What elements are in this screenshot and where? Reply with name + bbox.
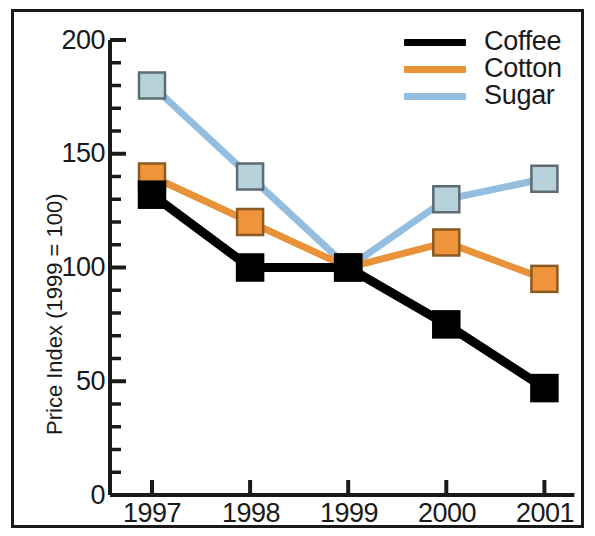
marker-coffee-2001	[531, 375, 557, 401]
marker-sugar-1998	[237, 164, 263, 190]
xtick-label-2000: 2000	[418, 498, 476, 529]
marker-sugar-1997	[139, 73, 165, 99]
marker-coffee-2000	[433, 311, 459, 337]
series-coffee	[139, 182, 557, 401]
xtick-label-1997: 1997	[123, 498, 181, 529]
marker-cotton-1998	[237, 209, 263, 235]
xtick-label-2001: 2001	[516, 498, 574, 529]
legend-item-coffee: Coffee	[404, 28, 584, 55]
legend-swatch-cotton	[404, 66, 466, 73]
legend-item-sugar: Sugar	[404, 82, 584, 109]
chart-legend: Coffee Cotton Sugar	[404, 28, 584, 110]
series-line-coffee	[152, 195, 544, 388]
marker-cotton-2000	[433, 229, 459, 255]
ytick-label-200: 200	[10, 25, 105, 56]
marker-cotton-2001	[531, 266, 557, 292]
legend-swatch-coffee	[404, 39, 466, 46]
marker-coffee-1997	[139, 182, 165, 208]
legend-label-sugar: Sugar	[484, 80, 555, 111]
xtick-label-1999: 1999	[320, 498, 378, 529]
legend-item-cotton: Cotton	[404, 55, 584, 82]
marker-sugar-2000	[433, 186, 459, 212]
marker-coffee-1999	[335, 255, 361, 281]
xtick-label-1998: 1998	[222, 498, 280, 529]
marker-coffee-1998	[237, 255, 263, 281]
marker-sugar-2001	[531, 166, 557, 192]
chart-figure: 200 150 100 50 0 1997 1998 1999 2000 200…	[0, 0, 595, 536]
ytick-label-0: 0	[10, 480, 105, 511]
ytick-label-150: 150	[10, 138, 105, 169]
series-group	[139, 73, 557, 402]
y-axis-title: Price Index (1999 = 100)	[42, 193, 68, 435]
legend-swatch-sugar	[404, 93, 466, 100]
